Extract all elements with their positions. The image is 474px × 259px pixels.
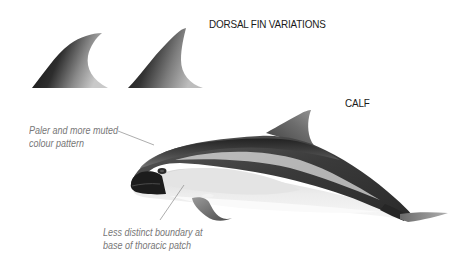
porpoise-calf (131, 110, 448, 222)
fin-variation-triangular (128, 28, 203, 88)
annotation-boundary-line1: Less distinct boundary at (103, 227, 203, 240)
annotation-boundary-line2: base of thoracic patch (103, 240, 203, 253)
leader-line-colour (118, 131, 154, 145)
annotation-thoracic-boundary: Less distinct boundary at base of thorac… (103, 227, 203, 252)
annotation-colour-line1: Paler and more muted (29, 125, 118, 138)
calf-tail-fluke (400, 212, 448, 222)
annotation-colour-pattern: Paler and more muted colour pattern (29, 125, 118, 150)
dorsal-fin-variations-heading: DORSAL FIN VARIATIONS (209, 18, 326, 30)
annotation-colour-line2: colour pattern (29, 138, 118, 151)
calf-label: CALF (345, 97, 370, 109)
illustration-canvas: DORSAL FIN VARIATIONS CALF Paler and mor… (0, 0, 474, 259)
fin-variation-falcate (32, 33, 108, 88)
